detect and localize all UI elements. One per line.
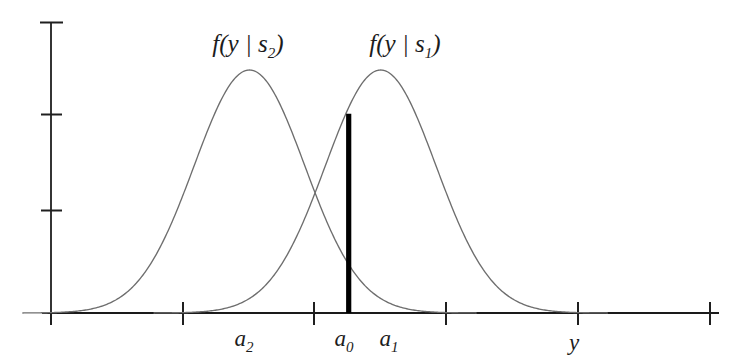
figure-canvas: f(y | s2) f(y | s1) a2 a0 a1 y — [0, 0, 741, 363]
axis-label-y: y — [567, 330, 580, 355]
density-figure: f(y | s2) f(y | s1) a2 a0 a1 y — [0, 0, 741, 363]
